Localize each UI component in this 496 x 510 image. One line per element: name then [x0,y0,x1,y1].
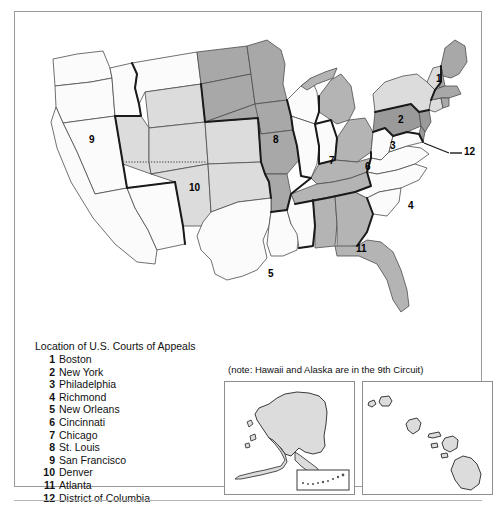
map-label-circuit-2: 2 [398,115,404,125]
legend-item-4: 4 Richmond [35,391,250,404]
legend-rank-2: 2 [35,366,55,379]
legend-item-12: 12 District of Columbia [35,492,250,505]
hawaii-alaska-note: (note: Hawaii and Alaska are in the 9th … [228,364,423,375]
map-label-circuit-11: 11 [356,244,367,254]
legend-rank-12: 12 [35,492,55,505]
map-label-circuit-4: 4 [408,201,414,211]
map-label-circuit-6: 6 [365,162,371,172]
map-label-circuit-7: 7 [329,156,335,166]
legend-rank-1: 1 [35,353,55,366]
bottom-divider [14,500,482,501]
legend-rank-7: 7 [35,429,55,442]
map-label-circuit-8: 8 [273,135,279,145]
legend-city-8: St. Louis [59,441,100,454]
legend-city-4: Richmond [59,391,106,404]
legend-item-3: 3 Philadelphia [35,378,250,391]
map-label-circuit-12: 12 [464,147,475,157]
legend-title: Location of U.S. Courts of Appeals [35,340,250,353]
legend-city-12: District of Columbia [59,492,150,505]
map-label-circuit-1: 1 [436,74,442,84]
legend-city-11: Atlanta [59,479,92,492]
legend-city-3: Philadelphia [59,378,116,391]
legend-rank-5: 5 [35,403,55,416]
legend-item-11: 11 Atlanta [35,479,250,492]
legend-rank-9: 9 [35,454,55,467]
legend-rank-3: 3 [35,378,55,391]
legend-rank-4: 4 [35,391,55,404]
legend-item-1: 1 Boston [35,353,250,366]
legend: Location of U.S. Courts of Appeals 1 Bos… [35,340,250,504]
legend-item-10: 10 Denver [35,466,250,479]
legend-item-5: 5 New Orleans [35,403,250,416]
legend-city-6: Cincinnati [59,416,105,429]
legend-rank-6: 6 [35,416,55,429]
legend-city-2: New York [59,366,103,379]
map-label-circuit-3: 3 [390,141,396,151]
map-label-circuit-9: 9 [89,135,95,145]
legend-item-9: 9 San Francisco [35,454,250,467]
legend-rank-10: 10 [35,466,55,479]
hawaii-inset-map [362,381,493,495]
legend-item-7: 7 Chicago [35,429,250,442]
us-circuit-map: 1 2 3 4 5 6 7 8 9 10 11 12 [15,12,481,332]
legend-item-8: 8 St. Louis [35,441,250,454]
map-label-circuit-5: 5 [268,269,274,279]
legend-city-7: Chicago [59,429,98,442]
map-label-circuit-10: 10 [189,183,200,193]
legend-item-6: 6 Cincinnati [35,416,250,429]
legend-city-10: Denver [59,466,93,479]
legend-item-2: 2 New York [35,366,250,379]
legend-rank-11: 11 [35,479,55,492]
legend-city-9: San Francisco [59,454,126,467]
alaska-inset-map [224,381,355,495]
legend-city-5: New Orleans [59,403,120,416]
legend-rank-8: 8 [35,441,55,454]
figure-frame: 1 2 3 4 5 6 7 8 9 10 11 12 Location of U… [14,11,482,487]
legend-city-1: Boston [59,353,92,366]
